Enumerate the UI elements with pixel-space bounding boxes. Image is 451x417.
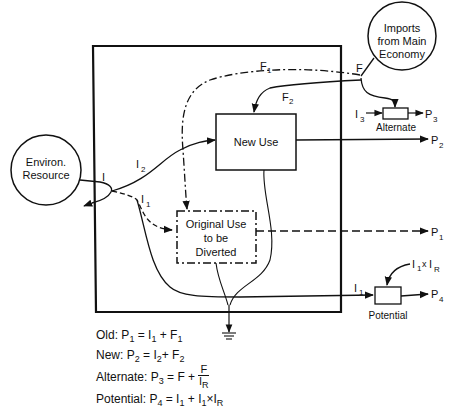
flow-F2 (254, 80, 361, 112)
flow-F-from-imports (361, 58, 374, 76)
diagram-canvas: Environ. Resource Imports from Main Econ… (0, 0, 451, 417)
label-F: F (356, 62, 363, 74)
label-I3-sub: 3 (360, 115, 365, 124)
label-I1-bottom-sub: 1 (359, 288, 364, 297)
imports-label-1: Imports (384, 22, 421, 34)
alternate-fraction: F IR (198, 364, 209, 391)
label-I1xIR-x: x (422, 259, 427, 269)
label-P4-sub: 4 (439, 295, 444, 304)
flow-I2 (112, 140, 215, 191)
label-I1xIR-I: I (412, 258, 415, 270)
alternate-box (383, 108, 408, 119)
flow-P2 (296, 139, 428, 140)
new-use-label: New Use (234, 136, 279, 148)
label-P1: P (431, 226, 438, 238)
flow-original-to-sink (216, 263, 228, 305)
label-P2-sub: 2 (439, 141, 444, 150)
potential-box (375, 287, 401, 304)
label-I1xIR-sub2: R (434, 265, 440, 274)
original-use-label-1: Original Use (186, 218, 247, 230)
equation-old: Old: P1 = I1 + F1 (96, 328, 182, 344)
equation-new: New: P2 = I2+ F2 (96, 348, 184, 364)
system-boundary-box (93, 46, 341, 312)
flow-P4 (401, 294, 428, 296)
label-I2: I (136, 158, 139, 170)
label-I2-sub: 2 (141, 165, 146, 174)
flow-F-to-alternate (361, 78, 395, 107)
environ-resource-label-2: Resource (22, 169, 69, 181)
equation-potential: Potential: P4 = I1 + I1×IR (96, 392, 223, 408)
label-P3: P (425, 108, 432, 120)
alternate-label: Alternate (376, 122, 416, 133)
equation-alternate: Alternate: P3 = F + F IR (96, 364, 209, 391)
label-F1: F (260, 60, 267, 72)
label-I3: I (355, 108, 358, 120)
label-P3-sub: 3 (433, 115, 438, 124)
original-use-label-3: Diverted (196, 246, 237, 258)
flow-I1xIR (387, 264, 410, 285)
label-P1-sub: 1 (439, 233, 444, 242)
imports-label-3: Economy (379, 48, 425, 60)
label-P2: P (431, 134, 438, 146)
original-use-label-2: to be (204, 232, 228, 244)
label-I1-sub: 1 (146, 200, 151, 209)
label-I1: I (141, 193, 144, 205)
label-F2-sub: 2 (289, 97, 294, 106)
sink-ground-icon (222, 333, 236, 339)
label-I1-bottom: I (354, 282, 357, 294)
potential-label: Potential (369, 310, 408, 321)
environ-resource-label-1: Environ. (26, 156, 66, 168)
label-F2: F (282, 91, 289, 103)
system-boundary (93, 46, 317, 114)
label-P4: P (431, 288, 438, 300)
label-F1-sub: 1 (267, 66, 272, 75)
flow-I (80, 180, 112, 206)
imports-label-2: from Main (378, 35, 427, 47)
label-I: I (102, 171, 105, 183)
label-I1xIR-I2: I (429, 258, 432, 270)
